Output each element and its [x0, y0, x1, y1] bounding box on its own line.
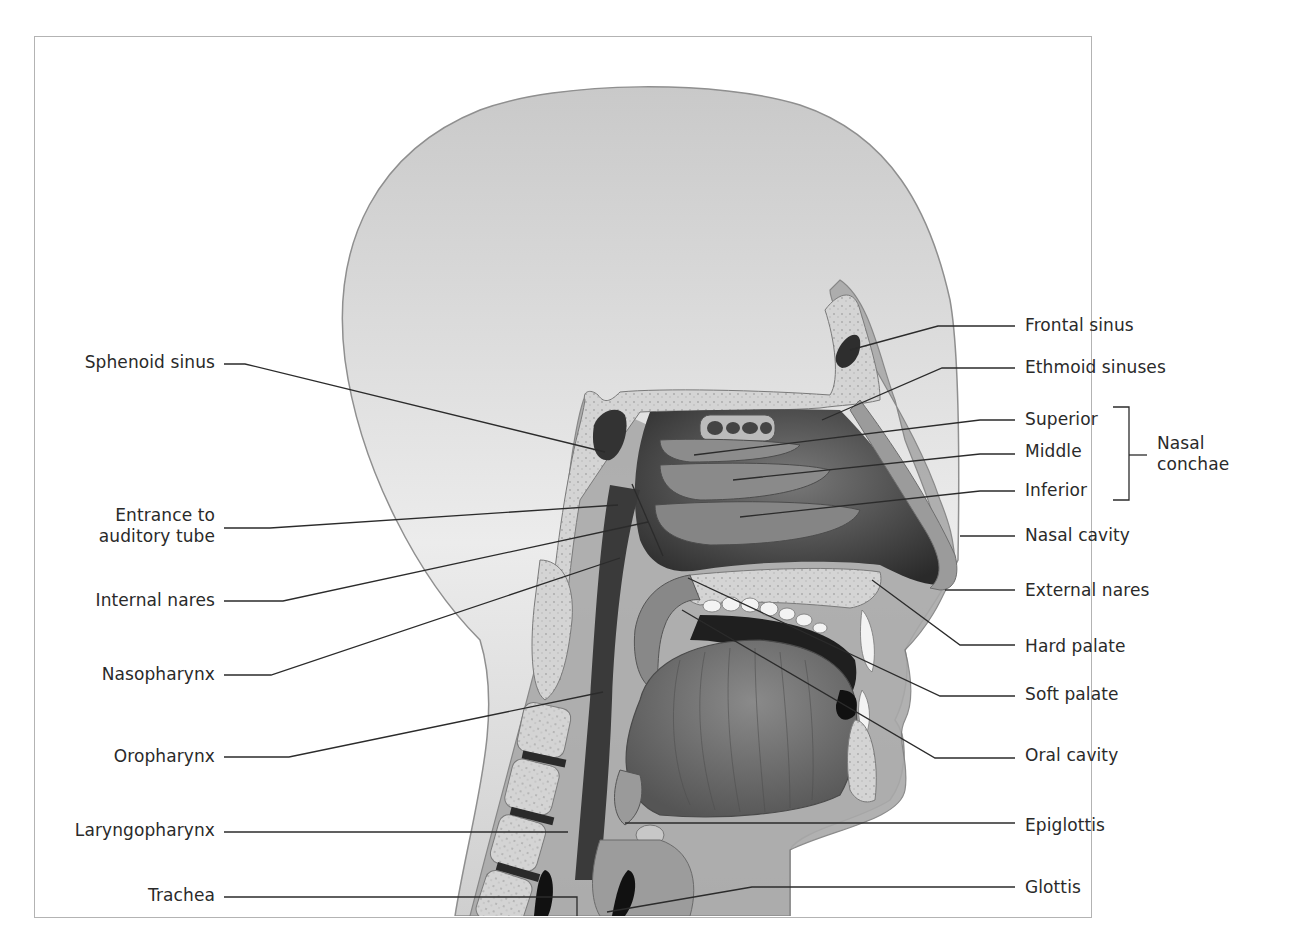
label-external-nares: External nares: [1025, 580, 1149, 601]
label-frontal-sinus: Frontal sinus: [1025, 315, 1134, 336]
label-epiglottis: Epiglottis: [1025, 815, 1105, 836]
label-hard-palate: Hard palate: [1025, 636, 1126, 657]
label-soft-palate: Soft palate: [1025, 684, 1119, 705]
label-sphenoid-sinus: Sphenoid sinus: [85, 352, 215, 373]
larynx-shape: [593, 840, 694, 916]
label-nasal-cavity: Nasal cavity: [1025, 525, 1130, 546]
label-trachea: Trachea: [148, 885, 215, 906]
label-entrance-auditory-tube: Entrance to auditory tube: [99, 505, 215, 547]
label-inferior-concha: Inferior: [1025, 480, 1087, 501]
ethmoid-sinuses-shape: [700, 415, 775, 441]
label-laryngopharynx: Laryngopharynx: [75, 820, 215, 841]
head-sagittal-section-illustration: [0, 0, 1301, 947]
label-nasal-conchae: Nasal conchae: [1157, 433, 1229, 475]
label-ethmoid-sinuses: Ethmoid sinuses: [1025, 357, 1166, 378]
label-internal-nares: Internal nares: [96, 590, 215, 611]
label-glottis: Glottis: [1025, 877, 1081, 898]
label-middle-concha: Middle: [1025, 441, 1082, 462]
nasal-conchae-bracket: [1113, 407, 1129, 500]
label-oral-cavity: Oral cavity: [1025, 745, 1118, 766]
label-oropharynx: Oropharynx: [114, 746, 215, 767]
label-nasopharynx: Nasopharynx: [102, 664, 215, 685]
label-superior-concha: Superior: [1025, 409, 1098, 430]
